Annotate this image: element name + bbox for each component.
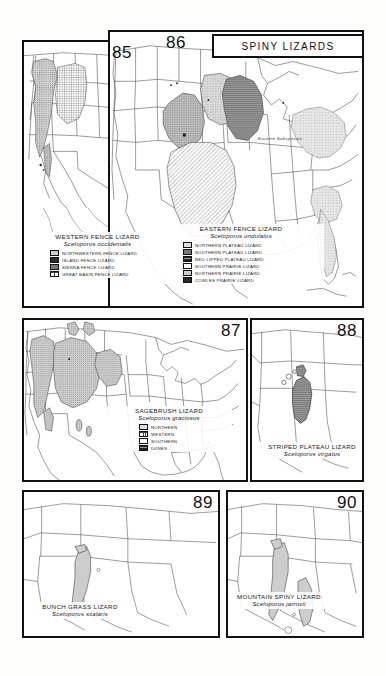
panel-86-caption: EASTERN FENCE LIZARD Sceloporus undulatu… [158,224,324,284]
panel-87-legend: NORTHERN WESTERN SOUTHERN DUNES [139,424,229,451]
panel-87-common-name: SAGEBRUSH LIZARD [109,407,229,414]
swatch-icon [183,249,192,255]
legend-item: COWLES PRAIRIE LIZARD [183,277,254,283]
legend-item: NORTHERN [139,424,177,430]
map-panel-89[interactable]: 89 BUNCH GRASS LIZARD Sceloporus scalari… [22,490,220,638]
legend-item: SOUTHERN PLATEAU LIZARD [183,249,262,255]
swatch-icon [139,424,148,430]
legend-item: SIERRA FENCE LIZARD [50,264,115,270]
swatch-icon [183,256,192,262]
legend-label: NORTHERN [151,425,177,430]
panel-88-common-name: STRIPED PLATEAU LIZARD [259,443,364,450]
map-panel-87[interactable]: 87 SAGEBRUSH LIZARD Sceloporus graciosus… [22,318,248,482]
legend-label: SOUTHERN PLATEAU LIZARD [195,250,262,255]
legend-label: COWLES PRAIRIE LIZARD [195,278,254,283]
legend-label: DUNES [151,446,167,451]
panel-86-annotation: Eastern Subspecies [258,136,302,141]
panel-90-caption: MOUNTAIN SPINY LIZARD Sceloporus jarrovi… [230,592,328,609]
page-title-box: SPINY LIZARDS [212,34,364,58]
plate-number-87: 87 [221,321,241,341]
legend-label: SOUTHERN [151,439,177,444]
swatch-icon [183,270,192,276]
legend-label: WESTERN [151,432,174,437]
plate-number-90: 90 [337,493,357,513]
page-title: SPINY LIZARDS [241,41,334,52]
legend-item: WESTERN [139,431,174,437]
panel-87-caption: SAGEBRUSH LIZARD Sceloporus graciosus NO… [106,406,232,452]
legend-label: SIERRA FENCE LIZARD [62,265,115,270]
legend-label: RED-LIPPED PLATEAU LIZARD [195,257,264,262]
swatch-icon [183,263,192,269]
panel-88-scientific-name: Sceloporus virgatus [259,451,364,458]
legend-item: SOUTHERN PRAIRIE LIZARD [183,263,260,269]
legend-label: NORTHERN PRAIRIE LIZARD [195,271,260,276]
plate-number-88: 88 [337,321,357,341]
map-panel-90[interactable]: 90 MOUNTAIN SPINY LIZARD Sceloporus jarr… [226,490,364,638]
swatch-icon [50,271,59,277]
panel-85-scientific-name: Sceloporus occidentalis [30,241,163,248]
legend-item: NORTHERN PRAIRIE LIZARD [183,270,260,276]
panel-87-map [24,320,246,480]
swatch-icon [50,264,59,270]
plate-number-89: 89 [193,493,213,513]
legend-item: ISLAND FENCE LIZARD [50,257,115,263]
sagebrush-lizard-range-map [24,320,246,480]
map-panel-88[interactable]: 88 STRIPED PLATEAU LIZARD Sceloporus vir… [250,318,364,482]
legend-item: NORTHERN PLATEAU LIZARD [183,242,262,248]
panel-85-common-name: WESTERN FENCE LIZARD [30,233,163,240]
plate-number-86: 86 [166,33,186,53]
legend-label: NORTHERN PLATEAU LIZARD [195,243,262,248]
panel-89-common-name: BUNCH GRASS LIZARD [29,603,131,610]
swatch-icon [139,445,148,451]
panel-85-caption: WESTERN FENCE LIZARD Sceloporus occident… [27,232,163,278]
legend-item: DUNES [139,445,167,451]
field-guide-page: 85 WESTERN FENCE LIZARD Sceloporus occid… [0,0,386,676]
panel-86-scientific-name: Sceloporus undulatus [161,233,321,240]
plate-number-85: 85 [112,43,132,63]
panel-87-scientific-name: Sceloporus graciosus [109,415,229,422]
legend-label: SOUTHERN PRAIRIE LIZARD [195,264,260,269]
swatch-icon [50,250,59,256]
legend-label: ISLAND FENCE LIZARD [62,258,115,263]
swatch-icon [50,257,59,263]
panel-90-scientific-name: Sceloporus jarrovii [233,601,325,608]
panel-86-common-name: EASTERN FENCE LIZARD [161,225,321,232]
panel-89-caption: BUNCH GRASS LIZARD Sceloporus scalaris [26,602,134,619]
legend-label: NORTHWESTERN FENCE LIZARD [62,251,137,256]
panel-88-caption: STRIPED PLATEAU LIZARD Sceloporus virgat… [256,442,364,459]
swatch-icon [183,277,192,283]
mountain-spiny-lizard-range-map [228,492,362,636]
legend-item: NORTHWESTERN FENCE LIZARD [50,250,137,256]
legend-item: SOUTHERN [139,438,177,444]
legend-item: GREAT BASIN FENCE LIZARD [50,271,129,277]
swatch-icon [139,438,148,444]
panel-90-map [228,492,362,636]
legend-label: GREAT BASIN FENCE LIZARD [62,272,129,277]
legend-item: RED-LIPPED PLATEAU LIZARD [183,256,264,262]
swatch-icon [139,431,148,437]
panel-90-common-name: MOUNTAIN SPINY LIZARD [233,593,325,600]
swatch-icon [183,242,192,248]
panel-89-scientific-name: Sceloporus scalaris [29,611,131,618]
panel-85-legend: NORTHWESTERN FENCE LIZARD ISLAND FENCE L… [50,250,163,277]
panel-86-legend: NORTHERN PLATEAU LIZARD SOUTHERN PLATEAU… [183,242,321,283]
